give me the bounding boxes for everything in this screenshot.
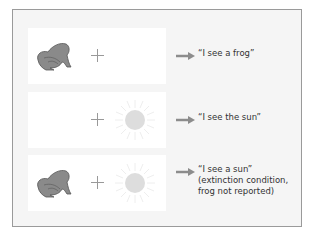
report-label: “I see a frog” — [198, 48, 254, 59]
arrow-icon — [176, 115, 196, 125]
stimulus-panel — [28, 155, 166, 211]
report-note-line-2: frog not reported) — [198, 186, 288, 197]
report-text: “I see a sun” — [198, 164, 288, 175]
row-sun-only: “I see the sun” — [0, 92, 313, 148]
stimulus-panel — [28, 28, 166, 84]
sun-icon — [113, 161, 157, 205]
report-label: “I see the sun” — [198, 112, 261, 123]
fixation-cross-icon — [90, 112, 105, 127]
report-label: “I see a sun” (extinction condition, fro… — [198, 164, 288, 197]
report-note-line-1: (extinction condition, — [198, 175, 288, 186]
sun-icon — [113, 98, 157, 142]
stimulus-panel — [28, 92, 166, 148]
row-frog-only: “I see a frog” — [0, 28, 313, 84]
frog-icon — [34, 167, 74, 199]
row-extinction: “I see a sun” (extinction condition, fro… — [0, 155, 313, 211]
frog-icon — [34, 40, 74, 72]
arrow-icon — [176, 167, 196, 177]
fixation-cross-icon — [90, 175, 105, 190]
fixation-cross-icon — [90, 48, 105, 63]
arrow-icon — [176, 51, 196, 61]
